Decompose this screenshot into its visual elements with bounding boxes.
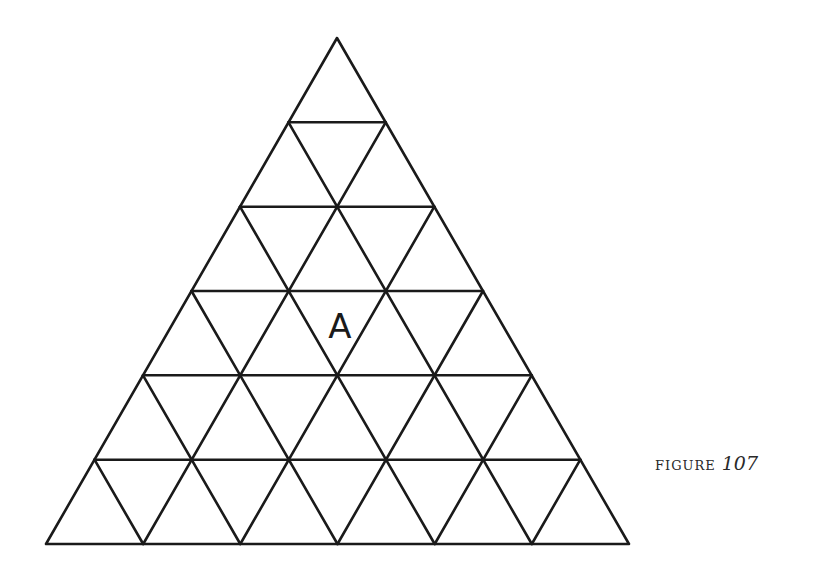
cell-label-a: A [328, 306, 351, 346]
diagonal-line [338, 291, 484, 544]
grid-lines [46, 38, 629, 544]
diagonal-line [289, 122, 532, 544]
caption-number: 107 [722, 452, 758, 474]
diagonal-line [192, 291, 338, 544]
triangular-grid-figure: A [0, 0, 820, 576]
diagonal-line [95, 460, 144, 544]
figure-caption: FIGURE107 [655, 452, 758, 474]
caption-word: FIGURE [655, 458, 716, 473]
diagonal-line [532, 460, 581, 544]
